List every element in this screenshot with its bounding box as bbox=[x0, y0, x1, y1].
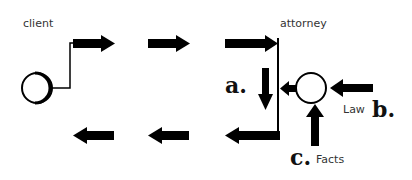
facts-label: Facts bbox=[316, 153, 344, 166]
law-label: Law bbox=[343, 103, 365, 116]
top-arrow-2 bbox=[148, 35, 190, 52]
bottom-arrow-3 bbox=[225, 127, 280, 144]
bottom-arrow-2 bbox=[148, 127, 189, 144]
label-b: b. bbox=[372, 96, 395, 122]
client-connector-line bbox=[52, 43, 80, 88]
client-label: client bbox=[23, 17, 53, 30]
attorney-output-arrow bbox=[280, 81, 296, 96]
client-node bbox=[22, 73, 52, 103]
bottom-arrow-1 bbox=[73, 127, 114, 144]
attorney-label: attorney bbox=[280, 17, 327, 30]
top-arrow-3 bbox=[225, 35, 278, 52]
label-c: c. bbox=[290, 144, 311, 170]
top-arrow-1 bbox=[73, 35, 115, 52]
attorney-node bbox=[296, 73, 326, 103]
diagram-canvas bbox=[0, 0, 412, 180]
label-a: a. bbox=[225, 72, 247, 98]
client-attorney-flow-diagram: client attorney a. Law b. c. Facts bbox=[0, 0, 412, 180]
arrow-a-down bbox=[258, 68, 273, 110]
facts-arrow bbox=[306, 104, 324, 146]
law-arrow bbox=[330, 79, 373, 97]
